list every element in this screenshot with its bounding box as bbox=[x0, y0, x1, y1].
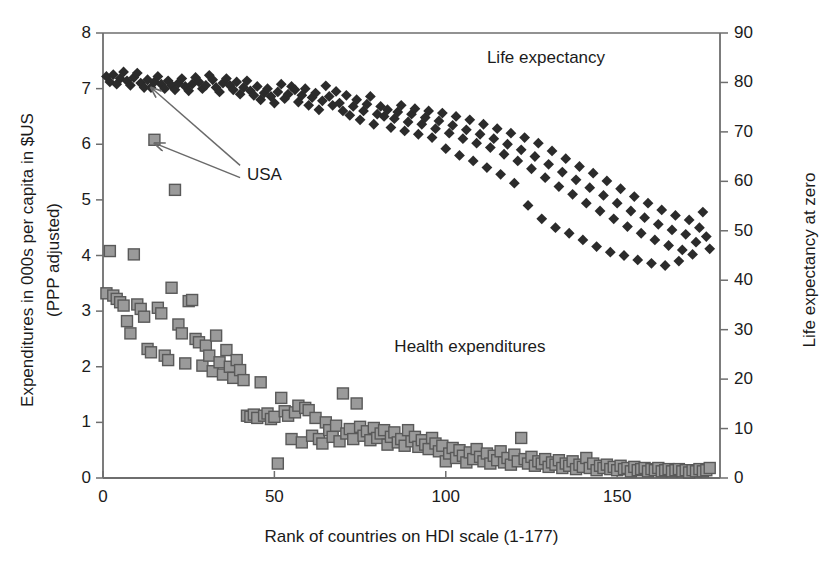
data-point-life-expectancy bbox=[656, 204, 667, 215]
data-point-health-expenditure bbox=[163, 355, 174, 366]
plot-area bbox=[0, 0, 822, 567]
data-point-health-expenditure bbox=[145, 347, 156, 358]
data-point-health-expenditure bbox=[286, 434, 297, 445]
data-point-life-expectancy bbox=[320, 80, 331, 91]
data-point-life-expectancy bbox=[673, 256, 684, 267]
data-point-life-expectancy bbox=[667, 225, 678, 236]
data-point-life-expectancy bbox=[413, 129, 424, 140]
data-point-life-expectancy bbox=[670, 210, 681, 221]
data-point-life-expectancy bbox=[526, 163, 537, 174]
data-point-life-expectancy bbox=[557, 167, 568, 178]
data-point-life-expectancy bbox=[663, 240, 674, 251]
x-axis-tick-100: 100 bbox=[426, 488, 466, 505]
data-point-life-expectancy bbox=[653, 219, 664, 230]
data-point-health-expenditure bbox=[180, 358, 191, 369]
y-axis-right-tick-80: 80 bbox=[734, 73, 764, 90]
data-point-life-expectancy bbox=[643, 198, 654, 209]
y-axis-left-ticks bbox=[96, 33, 103, 478]
data-point-health-expenditure bbox=[187, 295, 198, 306]
data-point-health-expenditure bbox=[169, 184, 180, 195]
y-axis-left-tick-1: 1 bbox=[67, 413, 91, 430]
y-axis-right-tick-30: 30 bbox=[734, 321, 764, 338]
data-point-life-expectancy bbox=[625, 206, 636, 217]
data-point-life-expectancy bbox=[523, 200, 534, 211]
y-axis-right-tick-40: 40 bbox=[734, 271, 764, 288]
data-point-life-expectancy bbox=[440, 143, 451, 154]
data-point-life-expectancy bbox=[601, 176, 612, 187]
data-point-life-expectancy bbox=[591, 241, 602, 252]
data-point-life-expectancy bbox=[694, 222, 705, 233]
y-axis-right-ticks bbox=[720, 33, 728, 478]
y-axis-right-tick-90: 90 bbox=[734, 24, 764, 41]
data-point-health-expenditure bbox=[351, 398, 362, 409]
data-point-health-expenditure bbox=[121, 316, 132, 327]
data-point-life-expectancy bbox=[605, 247, 616, 258]
data-point-health-expenditure bbox=[176, 328, 187, 339]
data-point-health-expenditure bbox=[221, 345, 232, 356]
data-point-life-expectancy bbox=[399, 126, 410, 137]
data-point-life-expectancy bbox=[516, 144, 527, 155]
data-point-life-expectancy bbox=[543, 159, 554, 170]
data-point-life-expectancy bbox=[492, 123, 503, 134]
data-point-life-expectancy bbox=[684, 215, 695, 226]
data-point-life-expectancy bbox=[636, 228, 647, 239]
data-point-health-expenditure bbox=[272, 458, 283, 469]
data-point-life-expectancy bbox=[632, 255, 643, 266]
data-point-life-expectancy bbox=[691, 237, 702, 248]
data-point-life-expectancy bbox=[701, 231, 712, 242]
x-axis-tick-50: 50 bbox=[254, 488, 294, 505]
data-point-health-expenditure bbox=[704, 462, 715, 473]
y-axis-left-tick-7: 7 bbox=[67, 80, 91, 97]
arrow-USA-life-expectancy bbox=[151, 88, 240, 166]
data-point-life-expectancy bbox=[680, 229, 691, 240]
data-point-life-expectancy bbox=[550, 222, 561, 233]
data-point-health-expenditure bbox=[125, 328, 136, 339]
data-point-life-expectancy bbox=[341, 90, 352, 101]
usa-annotation-arrows bbox=[151, 88, 240, 178]
data-point-life-expectancy bbox=[577, 235, 588, 246]
data-point-life-expectancy bbox=[478, 119, 489, 130]
data-point-health-expenditure bbox=[139, 311, 150, 322]
data-point-life-expectancy bbox=[660, 260, 671, 271]
data-point-health-expenditure bbox=[317, 438, 328, 449]
data-point-life-expectancy bbox=[612, 198, 623, 209]
data-point-life-expectancy bbox=[386, 122, 397, 133]
y-axis-left-tick-5: 5 bbox=[67, 191, 91, 208]
y-axis-left-tick-4: 4 bbox=[67, 247, 91, 264]
data-point-life-expectancy bbox=[608, 213, 619, 224]
data-point-life-expectancy bbox=[622, 221, 633, 232]
y-axis-right-tick-50: 50 bbox=[734, 222, 764, 239]
data-point-life-expectancy bbox=[649, 235, 660, 246]
y-axis-left-tick-2: 2 bbox=[67, 358, 91, 375]
data-point-health-expenditure bbox=[337, 388, 348, 399]
data-point-health-expenditure bbox=[204, 350, 215, 361]
data-point-life-expectancy bbox=[499, 149, 510, 160]
data-point-life-expectancy bbox=[639, 212, 650, 223]
data-point-health-expenditure bbox=[128, 249, 139, 260]
data-point-life-expectancy bbox=[553, 181, 564, 192]
data-point-health-expenditure bbox=[310, 412, 321, 423]
data-point-life-expectancy bbox=[488, 133, 499, 144]
data-point-life-expectancy bbox=[598, 190, 609, 201]
x-axis-ticks bbox=[103, 471, 617, 478]
arrow-USA-health-expenditure bbox=[154, 143, 240, 177]
data-point-life-expectancy bbox=[451, 111, 462, 122]
data-point-life-expectancy bbox=[574, 161, 585, 172]
y-axis-left-tick-8: 8 bbox=[67, 24, 91, 41]
annotation-life-expectancy: Life expectancy bbox=[487, 48, 605, 68]
data-point-life-expectancy bbox=[468, 156, 479, 167]
data-point-life-expectancy bbox=[584, 182, 595, 193]
data-point-health-expenditure bbox=[348, 434, 359, 445]
data-point-life-expectancy bbox=[485, 142, 496, 153]
data-point-life-expectancy bbox=[615, 183, 626, 194]
data-point-life-expectancy bbox=[495, 169, 506, 180]
data-point-life-expectancy bbox=[571, 174, 582, 185]
data-point-life-expectancy bbox=[533, 138, 544, 149]
data-point-life-expectancy bbox=[581, 198, 592, 209]
data-point-life-expectancy bbox=[536, 213, 547, 224]
data-point-life-expectancy bbox=[619, 250, 630, 261]
data-point-life-expectancy bbox=[502, 139, 513, 150]
data-point-life-expectancy bbox=[697, 207, 708, 218]
y-axis-right-tick-20: 20 bbox=[734, 370, 764, 387]
data-point-health-expenditure bbox=[296, 437, 307, 448]
